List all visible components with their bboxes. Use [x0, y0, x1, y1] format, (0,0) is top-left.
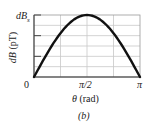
x-tick-pi-half: π/2 [79, 79, 92, 90]
y-axis-label: dB (pT) [7, 28, 18, 68]
y-top-label: dBs [16, 10, 30, 24]
x-tick-pi: π [137, 79, 142, 90]
x-tick-0: 0 [24, 79, 29, 90]
grid-lines [34, 15, 140, 77]
y-ticks [34, 15, 41, 56]
figure-caption: (b) [78, 110, 90, 121]
x-axis-label: θ (rad) [72, 93, 99, 104]
